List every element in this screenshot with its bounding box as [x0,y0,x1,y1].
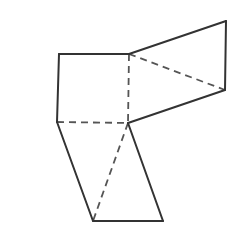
drawing-background [0,0,250,235]
wedge-right-edge [225,21,226,90]
figure-container: C [0,0,250,235]
wireframe-net-drawing [0,0,250,235]
